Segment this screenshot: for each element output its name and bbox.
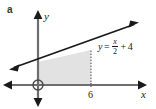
equation-fraction: x 2 — [112, 38, 118, 56]
x-axis-label: x — [141, 89, 146, 100]
equation-plus-sign: + — [121, 42, 127, 52]
x-tick-label-6: 6 — [88, 90, 93, 100]
x-axis-left-arrowhead — [3, 81, 12, 90]
y-axis-label: y — [44, 11, 49, 22]
graph-figure: a y x 6 y = x 2 + 4 — [0, 0, 156, 109]
y-axis-top-arrowhead — [34, 10, 43, 19]
function-line-right-arrowhead — [129, 21, 140, 28]
y-axis-bottom-arrowhead — [34, 98, 43, 107]
equation-constant: 4 — [128, 42, 133, 52]
part-label-a: a — [7, 5, 13, 15]
fraction-denominator: 2 — [113, 47, 117, 56]
equation-equals-sign: = — [104, 42, 110, 52]
fraction-numerator: x — [113, 38, 117, 47]
equation-label: y = x 2 + 4 — [98, 38, 133, 56]
equation-lhs: y — [98, 42, 102, 52]
function-line-left-arrowhead — [9, 64, 20, 71]
